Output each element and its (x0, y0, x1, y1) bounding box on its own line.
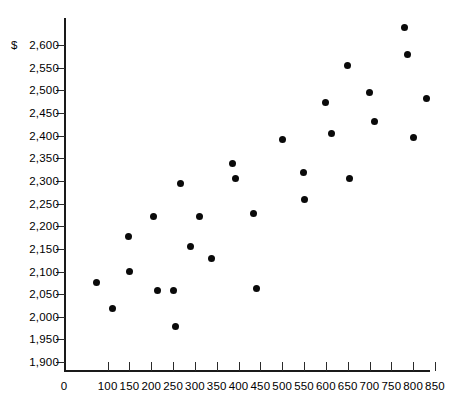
y-axis-tick-label: 2,000 (29, 312, 59, 324)
x-axis-tick (370, 362, 371, 371)
x-axis-line (64, 370, 430, 372)
data-point (126, 268, 133, 275)
y-axis-tick-label: 2,350 (29, 153, 59, 165)
data-point (232, 175, 239, 182)
x-axis-tick (239, 362, 240, 371)
y-axis-tick-label: 2,050 (29, 289, 59, 301)
data-point (328, 130, 335, 137)
data-point (344, 62, 351, 69)
data-point (253, 285, 260, 292)
data-point (154, 287, 161, 294)
y-axis-tick-label: 2,400 (29, 131, 59, 143)
y-axis-tick-label: 2,300 (29, 176, 59, 188)
y-axis-tick-label: 2,600 (29, 40, 59, 52)
data-point (423, 95, 430, 102)
data-point (150, 213, 157, 220)
data-point (301, 196, 308, 203)
data-point (371, 118, 378, 125)
y-axis-tick-label: 2,100 (29, 267, 59, 279)
data-point (208, 255, 215, 262)
y-axis-tick-label: 2,550 (29, 63, 59, 75)
data-point (93, 279, 100, 286)
x-axis-tick (435, 362, 436, 371)
x-axis-tick (129, 362, 130, 371)
data-point (187, 243, 194, 250)
x-axis-tick (260, 362, 261, 371)
data-point (170, 287, 177, 294)
data-point (401, 24, 408, 31)
x-axis-tick (304, 362, 305, 371)
data-point (125, 233, 132, 240)
y-axis-tick-label: 2,200 (29, 221, 59, 233)
x-axis-tick (326, 362, 327, 371)
x-axis-tick (217, 362, 218, 371)
data-point (279, 136, 286, 143)
x-axis-tick (391, 362, 392, 371)
data-point (172, 323, 179, 330)
data-point (366, 89, 373, 96)
data-point (346, 175, 353, 182)
data-point (322, 99, 329, 106)
y-axis-tick-label: 1,950 (29, 334, 59, 346)
x-axis-tick (282, 362, 283, 371)
y-axis-tick-label: 2,450 (29, 108, 59, 120)
x-axis-tick (348, 362, 349, 371)
data-point (404, 51, 411, 58)
x-axis-tick (195, 362, 196, 371)
x-axis-tick-label: 0 (44, 381, 84, 393)
y-axis-tick-label: 2,250 (29, 199, 59, 211)
data-point (229, 160, 236, 167)
x-axis-tick (413, 362, 414, 371)
data-point (109, 305, 116, 312)
data-point (410, 134, 417, 141)
x-axis-tick-label: 850 (415, 381, 449, 393)
data-point (177, 180, 184, 187)
x-axis-tick (108, 362, 109, 371)
y-axis-line (64, 18, 66, 372)
y-axis-tick-label: 1,900 (29, 357, 59, 369)
y-axis-currency-symbol: $ (11, 40, 17, 52)
y-axis-tick-label: 2,500 (29, 85, 59, 97)
data-point (196, 213, 203, 220)
x-axis-tick (151, 362, 152, 371)
data-point (300, 169, 307, 176)
x-axis-tick (173, 362, 174, 371)
data-point (250, 210, 257, 217)
y-axis-tick-label: 2,150 (29, 244, 59, 256)
